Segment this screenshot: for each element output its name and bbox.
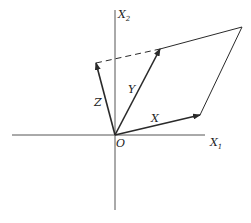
vector-z-label: Z xyxy=(93,96,102,109)
top-edge xyxy=(160,27,242,49)
x2-axis-label: X2 xyxy=(117,8,131,23)
dashed-edge xyxy=(96,49,160,63)
vector-diagram: X2 X1 O X Y Z xyxy=(0,0,251,223)
right-edge xyxy=(200,27,242,115)
origin-label: O xyxy=(116,137,125,150)
vector-x-label: X xyxy=(150,112,160,125)
x1-axis-label: X1 xyxy=(209,136,222,151)
